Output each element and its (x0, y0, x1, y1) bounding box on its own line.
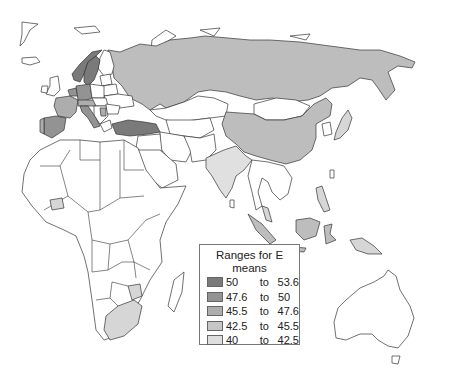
sumatra (248, 214, 276, 244)
legend-swatch (207, 292, 223, 302)
legend-swatch (207, 321, 223, 331)
legend-from: 42.5 (226, 320, 260, 332)
philippines (316, 186, 330, 212)
southeast-asia (248, 160, 292, 210)
burkina-faso (50, 198, 64, 210)
legend-from: 50 (226, 276, 260, 288)
iceland (22, 57, 40, 65)
legend-from: 45.5 (226, 305, 260, 317)
baltics (100, 74, 112, 86)
poland (90, 84, 104, 98)
legend-row: 42.5 to 45.5 (207, 319, 299, 334)
legend-to-word: to (260, 276, 278, 288)
spain (44, 116, 66, 138)
new-siberian-islands (290, 34, 310, 40)
legend-row: 47.6 to 50 (207, 290, 299, 305)
legend-to: 45.5 (278, 320, 299, 332)
legend-swatch (207, 277, 223, 287)
legend-to-word: to (260, 305, 278, 317)
legend-to: 53.6 (278, 276, 299, 288)
tasmania (392, 356, 400, 364)
borneo (296, 218, 320, 240)
legend-row: 40 to 42.5 (207, 333, 299, 348)
russia (106, 36, 415, 110)
malaysia-peninsula (262, 206, 272, 222)
map-legend: Ranges for E means 50 to 53.6 47.6 to 50… (199, 244, 300, 345)
severnaya-zemlya (200, 28, 220, 36)
legend-to-word: to (260, 291, 278, 303)
france (54, 96, 78, 118)
sulawesi (324, 224, 336, 244)
legend-swatch (207, 335, 223, 345)
korea (322, 122, 332, 136)
india (206, 146, 252, 198)
franz-josef-land (74, 26, 100, 34)
sri-lanka (230, 200, 234, 208)
germany (76, 84, 92, 102)
svalbard (20, 22, 38, 46)
legend-to: 50 (278, 291, 290, 303)
taiwan (330, 170, 334, 178)
legend-row: 50 to 53.6 (207, 275, 299, 290)
turkey (112, 120, 160, 136)
legend-title: Ranges for E means (200, 249, 299, 275)
australia (334, 270, 414, 348)
portugal (40, 118, 44, 134)
legend-to: 47.6 (278, 305, 299, 317)
legend-swatch (207, 306, 223, 316)
new-guinea (350, 238, 382, 254)
japan (334, 110, 352, 140)
serbia (100, 108, 106, 116)
legend-row: 45.5 to 47.6 (207, 304, 299, 319)
legend-to-word: to (260, 320, 278, 332)
ireland (41, 86, 48, 93)
legend-to: 42.5 (278, 334, 299, 346)
madagascar (168, 272, 184, 312)
legend-from: 40 (226, 334, 260, 346)
legend-from: 47.6 (226, 291, 260, 303)
romania (106, 104, 120, 114)
legend-to-word: to (260, 334, 278, 346)
